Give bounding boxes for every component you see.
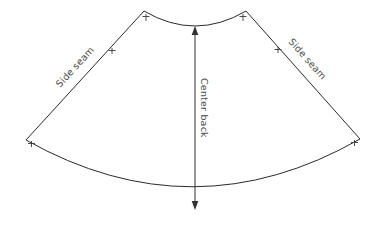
pattern-outline-group — [26, 11, 360, 187]
pattern-diagram: Side seam Side seam Center back — [0, 0, 385, 227]
top-left-corner-notch-icon — [143, 14, 150, 21]
pattern-outline-path — [26, 11, 360, 187]
center-back-arrow-head-bottom — [192, 201, 199, 210]
side-seam-right-label: Side seam — [287, 36, 329, 82]
center-back-label: Center back — [199, 78, 210, 138]
side-seam-left-label: Side seam — [53, 44, 96, 89]
labels-group: Side seam Side seam Center back — [53, 36, 328, 138]
top-right-corner-notch-icon — [240, 14, 247, 21]
center-back-arrow-head-top — [192, 26, 199, 35]
pattern-drawing-canvas: Side seam Side seam Center back — [0, 0, 385, 227]
center-back-arrow-group — [192, 26, 199, 210]
